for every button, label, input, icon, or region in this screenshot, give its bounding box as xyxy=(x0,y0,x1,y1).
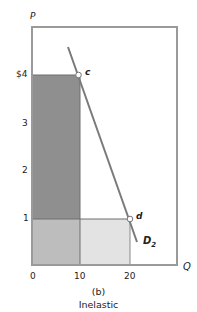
x-tick-0: 0 xyxy=(30,272,36,281)
light-region xyxy=(80,219,130,264)
y-tick-4: $4 xyxy=(16,70,27,79)
point-d-label: d xyxy=(136,212,142,221)
x-tick-20: 20 xyxy=(124,272,135,281)
point-c-label: c xyxy=(85,68,90,77)
y-tick-2: 2 xyxy=(22,166,28,175)
x-tick-10: 10 xyxy=(74,272,85,281)
y-tick-1: 1 xyxy=(23,214,29,223)
inelastic-demand-chart: P $4 3 2 1 0 10 20 Q c d D2 (b) Inelasti… xyxy=(0,0,197,312)
curve-label-d2: D2 xyxy=(143,236,156,249)
chart-caption: Inelastic xyxy=(0,299,197,310)
point-c-marker xyxy=(76,72,82,78)
q-axis-label: Q xyxy=(183,262,191,272)
y-tick-3: 3 xyxy=(22,119,28,128)
chart-canvas xyxy=(0,0,197,312)
medium-region xyxy=(33,219,80,264)
dark-region xyxy=(33,75,80,219)
p-axis-label: P xyxy=(30,12,35,21)
point-d-marker xyxy=(127,216,133,222)
panel-label: (b) xyxy=(0,286,197,297)
